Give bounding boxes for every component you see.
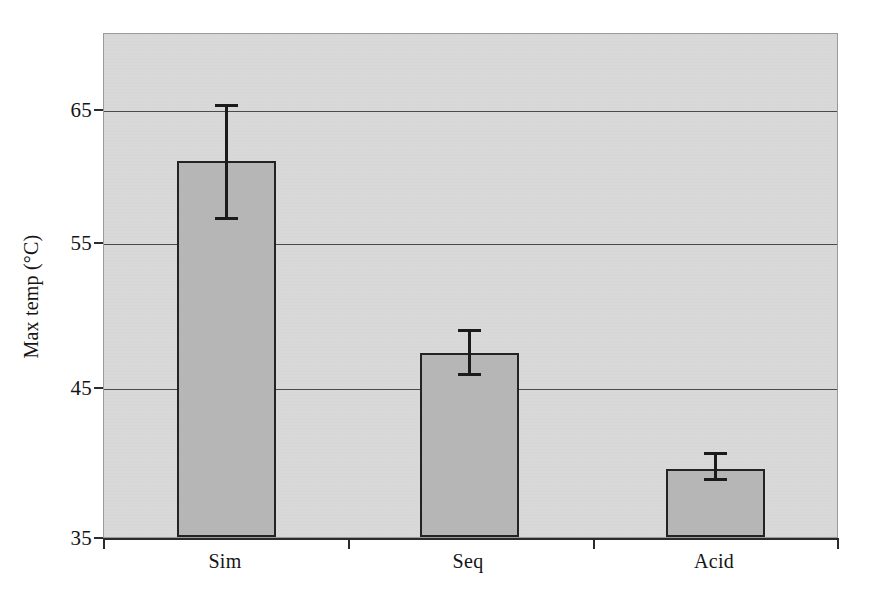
bar-chart-figure: Max temp (°C) 35 45 55 65	[0, 0, 873, 593]
y-tick-label-45: 45	[46, 376, 92, 401]
x-tick-mark-start	[103, 539, 105, 549]
y-tick-label-35: 35	[46, 526, 92, 551]
y-axis-tick-labels: 35 45 55 65	[40, 0, 92, 593]
errorbar-cap-lower	[704, 478, 727, 481]
errorbar-cap-upper	[215, 104, 238, 107]
errorbar-cap-upper	[704, 452, 727, 455]
x-tick-mark-1	[348, 539, 350, 549]
errorbar-cap-lower	[215, 217, 238, 220]
bar-seq[interactable]	[420, 353, 519, 537]
plot-area	[103, 33, 838, 538]
y-tick-label-55: 55	[46, 231, 92, 256]
errorbar-stem	[714, 452, 717, 481]
x-tick-label-sim: Sim	[208, 550, 241, 573]
x-tick-label-seq: Seq	[453, 550, 484, 573]
x-tick-mark-end	[837, 539, 839, 549]
errorbar-stem	[225, 104, 228, 220]
x-tick-label-acid: Acid	[694, 550, 734, 573]
x-tick-mark-2	[593, 539, 595, 549]
y-tick-label-65: 65	[46, 98, 92, 123]
x-axis-line	[103, 538, 839, 540]
errorbar-cap-lower	[458, 373, 481, 376]
errorbar-stem	[468, 329, 471, 376]
errorbar-cap-upper	[458, 329, 481, 332]
gridline-65	[104, 111, 837, 112]
